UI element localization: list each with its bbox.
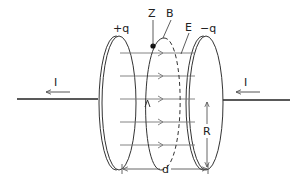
radius-label: R	[203, 125, 211, 138]
magnetic-loop-back	[161, 38, 180, 170]
separation-label: d	[162, 163, 169, 176]
current-label-right: I	[244, 76, 247, 89]
magnetic-loop	[145, 38, 180, 170]
magnetic-loop-front	[146, 38, 164, 170]
left-plate	[99, 36, 136, 170]
electric-field-label: E	[185, 21, 192, 34]
current-label-left: I	[54, 76, 57, 89]
point-z-label: Z	[148, 7, 156, 20]
left-plate-charge-label: +q	[113, 22, 129, 35]
e-leader	[181, 33, 189, 54]
right-plate	[186, 36, 223, 170]
magnetic-field-label: B	[166, 7, 174, 20]
capacitor-diagram: I I +q −q Z B E R d	[0, 0, 293, 181]
b-leader	[163, 20, 171, 38]
right-plate-charge-label: −q	[200, 22, 216, 35]
